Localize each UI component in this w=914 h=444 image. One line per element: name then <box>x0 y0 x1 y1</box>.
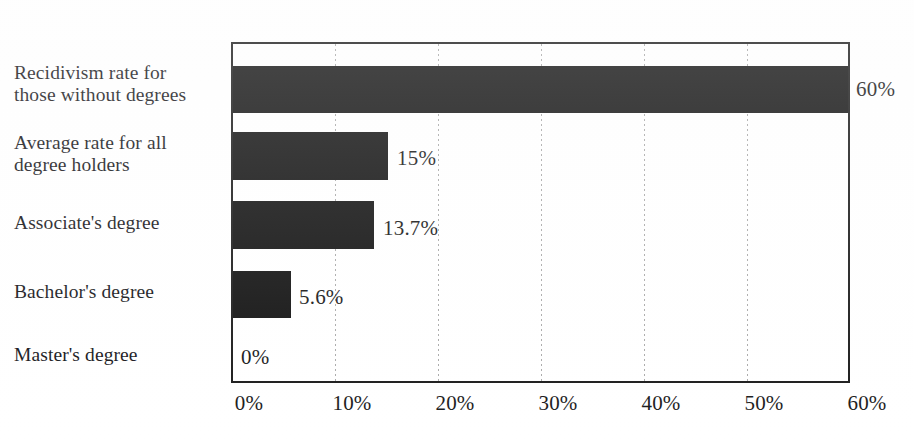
bar-recidivism-no-degree <box>233 66 848 113</box>
category-label-average-all-degree-holders: Average rate for all degree holders <box>14 132 226 176</box>
bar-average-all-degree-holders <box>233 132 388 180</box>
category-label-recidivism-no-degree: Recidivism rate for those without degree… <box>14 62 226 106</box>
xtick-label-30: 30% <box>538 392 577 414</box>
xtick-label-50: 50% <box>744 392 783 414</box>
value-label-average-all-degree-holders: 15% <box>397 148 436 169</box>
xtick-label-0: 0% <box>235 392 263 414</box>
bar-associates-degree <box>233 201 374 249</box>
bar-chart: Recidivism rate for those without degree… <box>0 0 914 444</box>
value-label-associates-degree: 13.7% <box>383 218 438 239</box>
value-label-masters-degree: 0% <box>241 347 269 368</box>
xtick-label-20: 20% <box>435 392 474 414</box>
xtick-label-60: 60% <box>847 392 886 414</box>
category-label-masters-degree: Master's degree <box>14 344 226 366</box>
category-label-bachelors-degree: Bachelor's degree <box>14 281 226 303</box>
category-label-associates-degree: Associate's degree <box>14 212 226 234</box>
xtick-label-10: 10% <box>332 392 371 414</box>
xtick-label-40: 40% <box>641 392 680 414</box>
value-label-bachelors-degree: 5.6% <box>299 287 344 308</box>
bar-bachelors-degree <box>233 271 291 318</box>
plot-area <box>233 44 848 381</box>
plot-frame <box>231 42 850 383</box>
value-label-recidivism-no-degree: 60% <box>856 79 895 100</box>
category-label-column: Recidivism rate for those without degree… <box>0 0 228 444</box>
